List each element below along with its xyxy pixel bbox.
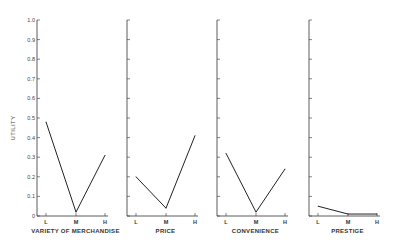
x-axis-label: PRICE [156,228,176,234]
y-tick-label: 0.6 [27,95,35,101]
x-tick-label: L [44,219,48,225]
y-tick-label: 0.9 [27,37,35,43]
data-point [105,155,106,156]
panel-3: LMHPRESTIGE [309,20,380,234]
utility-line-segment [318,206,348,214]
y-tick-label: 0.1 [27,193,35,199]
x-axis-label: CONVENIENCE [232,228,279,234]
data-point [377,214,378,215]
data-point [195,135,196,136]
y-tick-label: 1.0 [27,17,35,23]
y-tick-label: 0 [32,213,35,219]
utility-charts: 00.10.20.30.40.50.60.70.80.91.0LMHVARIET… [0,0,400,244]
y-tick-label: 0.4 [27,135,35,141]
data-point [136,176,137,177]
y-axis-label: UTILITY [10,115,16,140]
utility-line-segment [226,153,256,212]
data-point [166,208,167,209]
data-point [285,169,286,170]
x-tick-label: L [316,219,320,225]
x-tick-label: M [74,219,79,225]
y-tick-label: 0.8 [27,56,35,62]
x-tick-label: L [224,219,228,225]
x-tick-label: H [193,219,197,225]
utility-line-segment [46,122,76,212]
data-point [76,212,77,213]
y-tick-label: 0.7 [27,76,35,82]
y-tick-label: 0.5 [27,115,35,121]
panel-1: LMHPRICE [127,20,198,234]
x-axis-label: VARIETY OF MERCHANDISE [31,228,119,234]
data-point [226,153,227,154]
data-point [348,214,349,215]
data-point [318,206,319,207]
x-tick-label: M [164,219,169,225]
x-tick-label: M [254,219,259,225]
panel-2: LMHCONVENIENCE [217,20,288,234]
x-tick-label: L [134,219,138,225]
x-axis-label: PRESTIGE [331,228,364,234]
panel-0: 00.10.20.30.40.50.60.70.80.91.0LMHVARIET… [10,17,120,234]
utility-line-segment [136,177,166,208]
utility-line-segment [256,169,285,212]
data-point [46,122,47,123]
x-tick-label: H [103,219,107,225]
utility-line-segment [76,155,105,212]
y-tick-label: 0.3 [27,154,35,160]
data-point [256,212,257,213]
y-tick-label: 0.2 [27,174,35,180]
x-tick-label: H [375,219,379,225]
x-tick-label: M [346,219,351,225]
utility-line-segment [166,136,195,209]
x-tick-label: H [283,219,287,225]
